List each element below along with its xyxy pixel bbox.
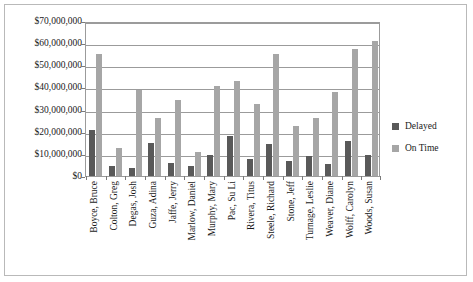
x-axis-tick-mark [106, 176, 107, 180]
bar-group [125, 23, 145, 176]
bar-on-time [332, 92, 338, 176]
x-axis-tick-mark [165, 176, 166, 180]
bar-delayed [148, 143, 154, 176]
bar-on-time [313, 118, 319, 176]
bar-delayed [345, 141, 351, 176]
bar-on-time [352, 49, 358, 176]
bar-on-time [116, 148, 122, 176]
bar-delayed [89, 130, 95, 177]
bar-group [86, 23, 106, 176]
bar-delayed [247, 159, 253, 176]
x-axis-tick-mark [361, 176, 362, 180]
bar-on-time [195, 152, 201, 176]
bar-delayed [286, 161, 292, 177]
x-axis-tick-mark [263, 176, 264, 180]
y-axis-tick-label: $60,000,000 [4, 39, 82, 49]
x-axis-tick-mark [125, 176, 126, 180]
bar-on-time [155, 118, 161, 176]
x-axis-tick-mark [204, 176, 205, 180]
bar-delayed [306, 156, 312, 176]
x-axis-tick-label: Degas, Josh [129, 181, 139, 226]
x-axis-tick-mark [243, 176, 244, 180]
bar-on-time [293, 126, 299, 176]
x-axis-labels: Boyce, BruceColton, GregDegas, JoshGuza,… [85, 181, 380, 279]
x-axis-tick-label: Boyce, Bruce [90, 181, 100, 233]
x-axis-tick-mark [224, 176, 225, 180]
x-axis-tick-label: Colton, Greg [110, 181, 120, 231]
bar-delayed [266, 144, 272, 176]
bar-group [145, 23, 165, 176]
y-axis-tick-mark [81, 177, 85, 178]
bar-on-time [234, 81, 240, 176]
x-axis-tick-label: Stone, Jeff [287, 181, 297, 221]
x-axis-tick-mark [283, 176, 284, 180]
x-axis-tick-mark [322, 176, 323, 180]
x-axis-tick-mark [184, 176, 185, 180]
bar-delayed [188, 166, 194, 176]
bar-group [361, 23, 381, 176]
x-axis-tick-label: Marlow, Daniel [188, 181, 198, 241]
bar-delayed [168, 163, 174, 176]
bar-on-time [273, 54, 279, 176]
bar-group [204, 23, 224, 176]
legend-swatch-icon [392, 123, 399, 130]
x-axis-tick-label: Steele, Richard [267, 181, 277, 239]
y-axis: $0$10,000,000$20,000,000$30,000,000$40,0… [0, 0, 82, 282]
y-axis-tick-label: $0 [4, 172, 82, 182]
bar-group [165, 23, 185, 176]
y-axis-tick-label: $20,000,000 [4, 128, 82, 138]
bar-group [184, 23, 204, 176]
x-axis-tick-label: Guza, Adina [149, 181, 159, 229]
legend-swatch-icon [392, 145, 399, 152]
x-axis-tick-label: Turnage, Leslie [306, 181, 316, 240]
x-axis-tick-mark [380, 176, 381, 180]
y-axis-tick-label: $50,000,000 [4, 61, 82, 71]
x-axis-tick-label: Weaver, Diane [326, 181, 336, 237]
y-axis-tick-label: $70,000,000 [4, 17, 82, 27]
bar-on-time [372, 41, 378, 176]
bar-group [243, 23, 263, 176]
x-axis-tick-label: Woods, Susan [365, 181, 375, 235]
bar-chart: $0$10,000,000$20,000,000$30,000,000$40,0… [0, 0, 473, 282]
y-axis-tick-label: $40,000,000 [4, 83, 82, 93]
bar-on-time [254, 104, 260, 176]
bar-group [263, 23, 283, 176]
bar-on-time [175, 100, 181, 176]
y-axis-tick-label: $30,000,000 [4, 106, 82, 116]
x-axis-tick-mark [86, 176, 87, 180]
x-axis-tick-mark [145, 176, 146, 180]
x-axis-tick-mark [302, 176, 303, 180]
plot-area [85, 22, 380, 177]
bar-group [224, 23, 244, 176]
bar-group [342, 23, 362, 176]
x-axis-tick-mark [342, 176, 343, 180]
bar-group [302, 23, 322, 176]
bar-on-time [136, 90, 142, 176]
y-axis-tick-label: $10,000,000 [4, 150, 82, 160]
bar-group [322, 23, 342, 176]
bar-series-container [86, 23, 379, 176]
chart-legend: DelayedOn Time [392, 122, 439, 165]
bar-delayed [325, 164, 331, 176]
bar-on-time [96, 54, 102, 176]
bar-group [283, 23, 303, 176]
x-axis-tick-label: Jaffe, Jerry [169, 181, 179, 223]
legend-item: Delayed [392, 122, 439, 132]
x-axis-tick-label: Murphy, Mary [208, 181, 218, 236]
bar-delayed [227, 136, 233, 176]
bar-delayed [207, 155, 213, 176]
bar-delayed [129, 168, 135, 176]
bar-delayed [365, 155, 371, 176]
legend-label: Delayed [405, 122, 437, 132]
legend-item: On Time [392, 144, 439, 154]
x-axis-tick-label: Wolff, Carolyn [346, 181, 356, 238]
bar-group [106, 23, 126, 176]
x-axis-tick-label: Pac, Su Li [228, 181, 238, 220]
bar-on-time [214, 86, 220, 176]
bar-delayed [109, 166, 115, 176]
legend-label: On Time [405, 144, 439, 154]
x-axis-tick-label: Rivera, Titus [247, 181, 257, 230]
